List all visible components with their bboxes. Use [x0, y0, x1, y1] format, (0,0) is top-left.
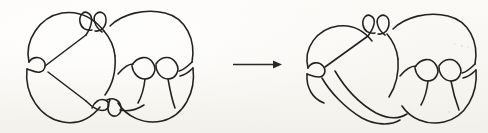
left-knot-clasp-bump-left [132, 58, 155, 79]
left-knot-diagonal-ne [45, 35, 86, 66]
left-knot-bottom-twist-a [86, 99, 109, 110]
paper-speck [461, 45, 463, 47]
arrow-head [273, 61, 282, 69]
paper-speck [455, 114, 456, 115]
right-knot-centre-descend [389, 59, 398, 97]
left-knot-arc-outer-upper-left [28, 12, 104, 62]
right-knot-arc-outer-upper-right [393, 14, 476, 64]
right-knot-band-upper-edge [325, 36, 368, 67]
left-knot-bottom-twist-b [107, 99, 121, 116]
paper-speck [448, 111, 449, 112]
right-knot-top-twist-b [377, 15, 389, 35]
left-knot-clasp-entry-left [118, 64, 133, 74]
right-knot-centre-upper [387, 34, 398, 59]
left-knot-diagonal-se [48, 72, 86, 101]
right-knot-clasp-bump-left [415, 60, 438, 81]
right-knot-right-inner-top [462, 64, 475, 73]
left-knot-twist-left [27, 58, 45, 73]
left-knot-bottom-tail [120, 105, 144, 111]
left-knot-clasp-descend-right [168, 79, 175, 108]
left-knot-clasp-descend-left [138, 79, 145, 103]
right-knot-clasp-descend-left [421, 81, 428, 105]
left-knot-diagram [0, 0, 488, 133]
right-knot-twist-left [307, 63, 325, 77]
paper-speck [454, 43, 455, 44]
left-knot-arc-outer-lower-left [27, 69, 100, 123]
right-knot-clasp-bump-right [439, 59, 461, 81]
left-knot-centre-upper [104, 31, 115, 56]
left-knot-clasp-bump-right [156, 57, 178, 79]
left-knot-centre-descend [105, 56, 115, 95]
right-knot-clasp-descend-right [451, 81, 459, 110]
paper-speck [467, 46, 468, 47]
left-knot-arc-outer-upper-right [110, 11, 193, 62]
right-knot-clasp-entry-left [400, 66, 416, 76]
knot-figure: Knot diagram isotopy Two hand-drawn knot… [0, 0, 488, 133]
left-knot-right-inner-top [179, 62, 192, 71]
right-knot-arc-outer-upper-left [307, 26, 372, 68]
